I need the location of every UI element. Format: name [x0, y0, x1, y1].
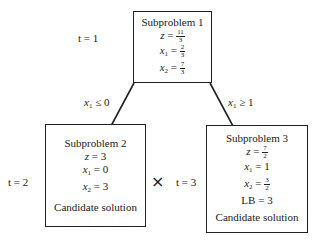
- node-subproblem-2: Subproblem 2 z = 3 x1 = 0 x2 = 3 Candida…: [45, 124, 146, 227]
- x1-value: x1 = 0: [46, 163, 145, 180]
- iteration-label-t1: t = 1: [78, 32, 98, 44]
- candidate-solution-note: Candidate solution: [207, 211, 307, 224]
- node-subproblem-1: Subproblem 1 z = 113 x1 = 23 x2 = 73: [133, 11, 212, 83]
- node-title: Subproblem 3: [207, 132, 307, 145]
- pruned-marker-icon: ×: [151, 172, 164, 191]
- node-title: Subproblem 1: [134, 16, 211, 29]
- x2-value: x2 = 3: [46, 180, 145, 197]
- node-subproblem-3: Subproblem 3 z = 72 x1 = 1 x2 = 32 LB = …: [206, 125, 308, 233]
- edge-label-left: x1 ≤ 0: [84, 96, 109, 110]
- x1-value: x1 = 1: [207, 160, 307, 177]
- candidate-solution-note: Candidate solution: [46, 201, 145, 214]
- edge-1-2: [111, 83, 134, 126]
- x1-value: x1 = 23: [134, 44, 211, 61]
- z-value: z = 113: [134, 29, 211, 44]
- z-value: z = 3: [46, 150, 145, 163]
- x2-value: x2 = 73: [134, 61, 211, 78]
- iteration-label-t2: t = 2: [8, 176, 28, 188]
- edge-label-right: x1 ≥ 1: [228, 96, 253, 110]
- node-title: Subproblem 2: [46, 137, 145, 150]
- lower-bound-value: LB = 3: [207, 194, 307, 207]
- iteration-label-t3: t = 3: [176, 176, 196, 188]
- x2-value: x2 = 32: [207, 177, 307, 194]
- z-value: z = 72: [207, 145, 307, 160]
